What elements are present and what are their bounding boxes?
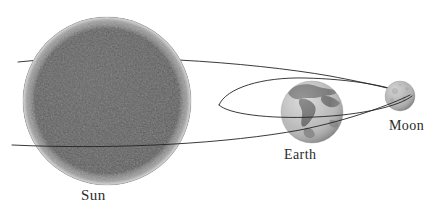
sun-body [23,17,191,185]
diagram-canvas [0,0,447,216]
label-earth: Earth [284,148,316,162]
label-sun: Sun [81,188,106,203]
solar-system-diagram: Sun Earth Moon [0,0,447,216]
label-moon: Moon [389,119,424,133]
earth-body [281,81,343,143]
